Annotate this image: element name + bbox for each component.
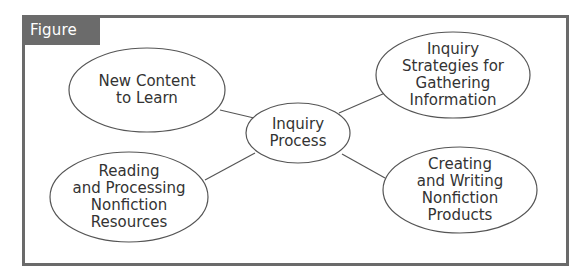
node-label-line: Gathering: [402, 75, 504, 92]
node-inquiry-process: Inquiry Process: [270, 116, 327, 150]
node-label-line: Products: [417, 207, 504, 224]
node-label-line: Creating: [417, 156, 504, 173]
edge-center-bottom-left: [205, 153, 255, 180]
edge-center-top-left: [220, 110, 254, 118]
node-label-line: to Learn: [98, 90, 195, 107]
node-label-line: Strategies for: [402, 58, 504, 75]
edge-center-bottom-right: [342, 154, 385, 178]
node-label-line: Inquiry: [402, 41, 504, 58]
node-creating-writing: Creating and Writing Nonfiction Products: [417, 156, 504, 224]
node-label-line: Process: [270, 133, 327, 150]
node-label-line: Reading: [72, 163, 185, 180]
node-label-line: Resources: [72, 214, 185, 231]
node-inquiry-strategies: Inquiry Strategies for Gathering Informa…: [402, 41, 504, 109]
node-label-line: Nonfiction: [72, 197, 185, 214]
node-label-line: and Processing: [72, 180, 185, 197]
node-label-line: Nonfiction: [417, 190, 504, 207]
node-new-content: New Content to Learn: [98, 73, 195, 107]
node-label-line: Inquiry: [270, 116, 327, 133]
edge-center-top-right: [339, 93, 385, 113]
node-label-line: and Writing: [417, 173, 504, 190]
node-label-line: New Content: [98, 73, 195, 90]
node-label-line: Information: [402, 92, 504, 109]
node-reading-processing: Reading and Processing Nonfiction Resour…: [72, 163, 185, 231]
